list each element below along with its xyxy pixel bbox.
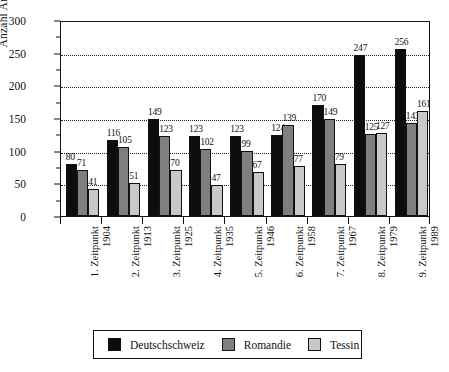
x-label-line-2: 1958: [306, 226, 318, 318]
bar[interactable]: [118, 147, 129, 216]
bar[interactable]: [200, 149, 211, 216]
x-axis-tick-label: 1. Zeitpunkt1904: [89, 226, 112, 318]
x-axis-labels: 1. Zeitpunkt19042. Zeitpunkt19133. Zeitp…: [60, 226, 430, 318]
bar[interactable]: [230, 136, 241, 216]
bar[interactable]: [294, 166, 305, 216]
bar[interactable]: [376, 133, 387, 216]
bar[interactable]: [159, 136, 170, 216]
bar[interactable]: [365, 134, 376, 216]
x-axis-tick-label: 8. Zeitpunkt1979: [376, 226, 399, 318]
bar[interactable]: [406, 123, 417, 216]
bar[interactable]: [395, 49, 406, 216]
x-axis-tick-label: 4. Zeitpunkt1935: [212, 226, 235, 318]
x-axis-tick: [307, 217, 308, 224]
bar[interactable]: [241, 151, 252, 216]
bar[interactable]: [66, 164, 77, 216]
x-label-line-1: 5. Zeitpunkt: [253, 226, 265, 318]
bar-slot: 127: [376, 22, 387, 216]
x-label-line-2: 1979: [388, 226, 400, 318]
bar-group: 256143161: [395, 22, 429, 216]
y-axis-tick-label: 100: [9, 146, 26, 158]
bar-slot: 125: [365, 22, 376, 216]
bar-slot: 105: [118, 22, 129, 216]
bar[interactable]: [170, 170, 181, 216]
x-label-line-1: 9. Zeitpunkt: [417, 226, 429, 318]
x-label-line-1: 6. Zeitpunkt: [294, 226, 306, 318]
bar-slot: 247: [354, 22, 365, 216]
y-axis-tick-label: 250: [9, 48, 26, 60]
bar[interactable]: [417, 111, 428, 216]
x-axis-tick-label: 5. Zeitpunkt1946: [253, 226, 276, 318]
bar-value-label: 47: [211, 174, 220, 184]
bar[interactable]: [271, 135, 282, 216]
x-label-line-2: 1913: [141, 226, 153, 318]
bar[interactable]: [129, 183, 140, 216]
plot-area: 8071411161055114912370123102471239967124…: [60, 21, 430, 217]
bar-value-label: 41: [88, 178, 97, 188]
legend-item: Romandie: [222, 338, 291, 351]
bar[interactable]: [253, 172, 264, 216]
x-axis-tick-label: 3. Zeitpunkt1925: [171, 226, 194, 318]
bar-slot: 123: [230, 22, 241, 216]
y-axis-tick-label: 0: [20, 211, 26, 223]
x-axis-tick: [101, 217, 102, 224]
bar-slot: 149: [148, 22, 159, 216]
bar-slot: 51: [129, 22, 140, 216]
bar-slot: 67: [253, 22, 264, 216]
bar-slot: 139: [282, 22, 293, 216]
x-axis-tick: [429, 217, 430, 224]
chart-legend: Deutschschweiz Romandie Tessin: [93, 330, 362, 359]
bar[interactable]: [107, 140, 118, 216]
x-axis-tick: [389, 217, 390, 224]
bar-slot: 170: [312, 22, 323, 216]
legend-swatch-icon: [222, 338, 235, 351]
bar-slot: 149: [324, 22, 335, 216]
y-axis-tick-label: 150: [9, 113, 26, 125]
bar-value-label: 79: [335, 153, 344, 163]
bar-group: 12413977: [271, 22, 305, 216]
x-label-line-1: 4. Zeitpunkt: [212, 226, 224, 318]
bar[interactable]: [189, 136, 200, 216]
bar-slot: 70: [170, 22, 181, 216]
bar-group: 807141: [66, 22, 100, 216]
x-axis-tick: [142, 217, 143, 224]
x-label-line-2: 1946: [265, 226, 277, 318]
bar-slot: 143: [406, 22, 417, 216]
x-label-line-1: 3. Zeitpunkt: [171, 226, 183, 318]
x-axis-tick: [348, 217, 349, 224]
legend-item: Tessin: [308, 338, 359, 351]
bar-slot: 123: [189, 22, 200, 216]
bar[interactable]: [282, 125, 293, 216]
bar[interactable]: [148, 119, 159, 216]
legend-label: Tessin: [330, 339, 359, 351]
bar-slot: 77: [294, 22, 305, 216]
x-label-line-1: 2. Zeitpunkt: [130, 226, 142, 318]
x-axis-tick-label: 9. Zeitpunkt1989: [417, 226, 440, 318]
bar-group: 14912370: [148, 22, 182, 216]
legend-swatch-icon: [308, 338, 321, 351]
x-label-line-2: 1904: [100, 226, 112, 318]
bar[interactable]: [77, 170, 88, 216]
bar-slot: 161: [417, 22, 428, 216]
bar[interactable]: [211, 185, 222, 216]
bar-value-label: 51: [129, 172, 138, 182]
bar-slot: 102: [200, 22, 211, 216]
y-axis-tick-label: 300: [9, 15, 26, 27]
x-label-line-2: 1967: [347, 226, 359, 318]
bar-slot: 99: [241, 22, 252, 216]
bar-slot: 124: [271, 22, 282, 216]
bar[interactable]: [324, 119, 335, 216]
bar[interactable]: [335, 164, 346, 216]
bar[interactable]: [354, 55, 365, 216]
bar[interactable]: [312, 105, 323, 216]
bar-group: 247125127: [354, 22, 388, 216]
bar-slot: 256: [395, 22, 406, 216]
x-axis-tick: [183, 217, 184, 224]
bar-group: 11610551: [107, 22, 141, 216]
bars-layer: 8071411161055114912370123102471239967124…: [61, 22, 429, 216]
bar-group: 17014979: [312, 22, 346, 216]
bar[interactable]: [88, 189, 99, 216]
bar-value-label: 99: [241, 140, 250, 150]
bar-value-label: 161: [417, 100, 431, 110]
bar-group: 12310247: [189, 22, 223, 216]
